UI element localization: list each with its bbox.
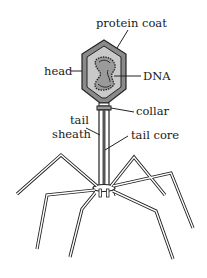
tail-core xyxy=(103,110,106,186)
label-tail-sheath-line1: tail xyxy=(70,113,89,127)
label-head: head xyxy=(44,64,73,78)
label-tail-core: tail core xyxy=(131,128,179,142)
collar xyxy=(97,103,111,110)
label-tail-sheath-line2: sheath xyxy=(52,127,92,141)
label-dna: DNA xyxy=(143,69,171,83)
label-collar: collar xyxy=(136,104,170,118)
label-protein-coat: protein coat xyxy=(96,16,167,30)
bacteriophage-diagram: protein coat head DNA collar tail sheath… xyxy=(0,0,207,278)
